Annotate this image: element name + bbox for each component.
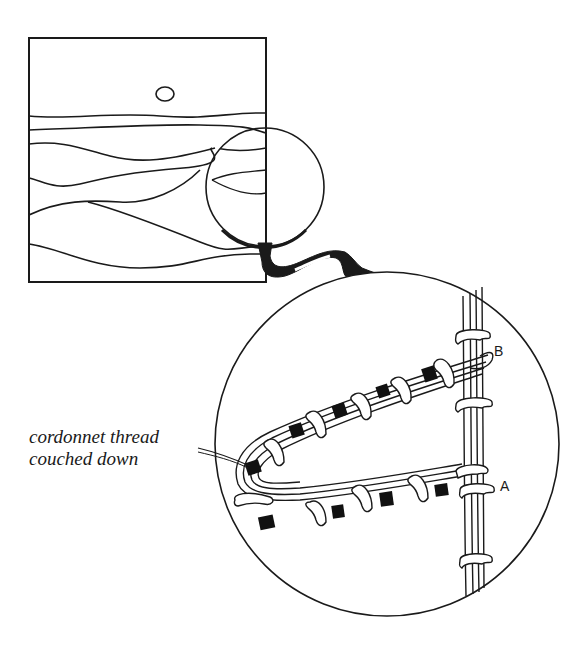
landscape-panel <box>29 38 266 282</box>
sun-icon <box>156 87 174 101</box>
point-label-a: A <box>500 478 510 494</box>
caption-annotation: cordonnet thread couched down <box>29 426 159 470</box>
embroidery-diagram: B A <box>0 0 583 646</box>
caption-line-1: cordonnet thread <box>29 426 159 447</box>
point-label-b: B <box>494 343 503 359</box>
magnifier-large: B A <box>198 272 559 616</box>
caption-line-2: couched down <box>29 448 138 469</box>
